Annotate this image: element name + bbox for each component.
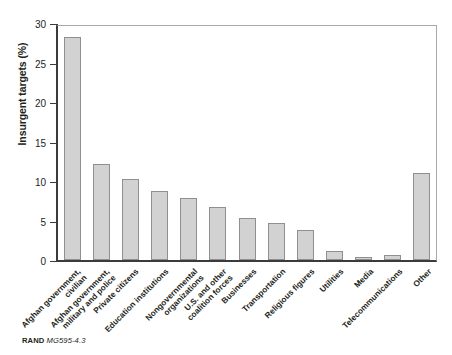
y-tick-label: 10	[10, 178, 46, 188]
bar[interactable]	[180, 198, 197, 260]
figure-source-note: RAND MG595-4.3	[22, 336, 85, 345]
bar-slot	[291, 26, 320, 260]
y-tick-label: 25	[10, 60, 46, 70]
bar-slot	[87, 26, 116, 260]
bar[interactable]	[413, 173, 430, 260]
bar[interactable]	[239, 218, 256, 260]
bar-slot	[145, 26, 174, 260]
bar[interactable]	[64, 37, 81, 260]
figure-container: Insurgent targets (%) 051015202530 Afgha…	[0, 0, 452, 355]
source-number: MG595-4.3	[47, 336, 86, 345]
bar-slot	[232, 26, 261, 260]
y-tick-label: 0	[10, 257, 46, 267]
plot-area	[56, 25, 437, 262]
bar[interactable]	[355, 257, 372, 260]
y-tick-label: 15	[10, 139, 46, 149]
bar[interactable]	[122, 179, 139, 260]
bar-slot	[378, 26, 407, 260]
bar-slot	[203, 26, 232, 260]
bar-slot	[174, 26, 203, 260]
bar[interactable]	[151, 191, 168, 260]
bar-slot	[58, 26, 87, 260]
y-tick-label: 20	[10, 99, 46, 109]
bar[interactable]	[209, 207, 226, 260]
y-tick-label: 30	[10, 20, 46, 30]
bar-slot	[116, 26, 145, 260]
bar[interactable]	[326, 251, 343, 260]
source-prefix: RAND	[22, 336, 44, 345]
bar[interactable]	[384, 255, 401, 260]
bar-slot	[320, 26, 349, 260]
bar-slot	[349, 26, 378, 260]
bar-slot	[407, 26, 436, 260]
bar[interactable]	[297, 230, 314, 260]
bar[interactable]	[268, 223, 285, 260]
bar-series	[58, 26, 436, 260]
y-axis-title: Insurgent targets (%)	[16, 14, 28, 174]
bar[interactable]	[93, 164, 110, 260]
y-tick-label: 5	[10, 218, 46, 228]
bar-slot	[262, 26, 291, 260]
